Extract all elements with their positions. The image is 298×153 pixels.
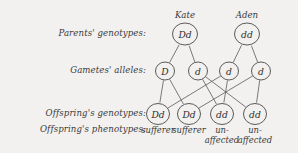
offspring-phenotype-3-line-1: affected bbox=[238, 135, 273, 145]
offspring-phenotype-0-line-0: sufferer bbox=[141, 125, 176, 135]
parent-gamete-link-1 bbox=[189, 46, 195, 62]
offspring-genotype-3: dd bbox=[249, 109, 261, 120]
offspring-phenotype-1-line-0: sufferer bbox=[172, 125, 207, 135]
gamete-offspring-link-0 bbox=[160, 80, 164, 102]
pedigree-svg: KateDdAdenddDdddDdDddddd sufferersuffere… bbox=[0, 0, 298, 153]
gamete-offspring-link-7 bbox=[257, 80, 260, 102]
gamete-offspring-link-4 bbox=[168, 76, 221, 108]
offspring-phenotype-3-line-0: un- bbox=[248, 125, 262, 135]
connector-lines bbox=[160, 45, 260, 108]
offspring-genotype-1: Dd bbox=[181, 109, 195, 120]
phenotype-labels: sufferersuffererun-affectedun-affected bbox=[141, 125, 273, 145]
parent-gamete-link-2 bbox=[233, 45, 241, 62]
parent-name-0: Kate bbox=[174, 10, 195, 20]
gamete-allele-2: d bbox=[226, 66, 232, 77]
parent-name-1: Aden bbox=[235, 10, 258, 20]
offspring-genotype-0: Dd bbox=[150, 109, 164, 120]
parent-genotype-0: Dd bbox=[177, 29, 191, 40]
parent-gamete-link-0 bbox=[170, 45, 180, 63]
gamete-allele-0: D bbox=[160, 66, 169, 77]
gamete-allele-3: d bbox=[258, 66, 264, 77]
gamete-offspring-link-6 bbox=[199, 76, 253, 108]
gamete-allele-1: d bbox=[195, 66, 201, 77]
offspring-genotype-2: dd bbox=[216, 109, 228, 120]
parent-gamete-link-3 bbox=[251, 46, 257, 62]
offspring-phenotype-2-line-1: affected bbox=[205, 135, 240, 145]
offspring-phenotype-2-line-0: un- bbox=[215, 125, 229, 135]
genotype-nodes: KateDdAdenddDdddDdDddddd bbox=[147, 10, 271, 125]
parent-genotype-1: dd bbox=[241, 29, 253, 40]
